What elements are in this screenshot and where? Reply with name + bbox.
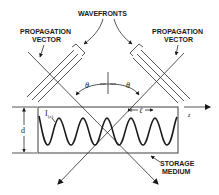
theta-arc-left	[76, 84, 106, 95]
propagation-vector-right-label-line1: PROPAGATION	[152, 28, 203, 35]
propagation-vector-right-label-line2: VECTOR	[164, 36, 193, 43]
storage-medium-label-line2: MEDIUM	[162, 168, 191, 175]
wavefronts-leader-right	[114, 19, 132, 44]
wavefronts-label: WAVEFRONTS	[78, 10, 127, 17]
thickness-label: d	[21, 126, 25, 135]
holographic-grating-diagram: WAVEFRONTS PROPAGATION VECTOR PROPAGATIO…	[0, 0, 219, 195]
propagation-vector-left-label-line2: VECTOR	[32, 36, 61, 43]
theta-left-label: θ	[85, 81, 89, 90]
theta-right-label: θ	[126, 81, 130, 90]
intensity-fringe-wave	[39, 116, 177, 145]
intensity-label: I(z)	[45, 109, 54, 119]
theta-arc-right	[110, 84, 139, 95]
propagation-vector-left-label-line1: PROPAGATION	[20, 28, 71, 35]
propagation-left-leader	[40, 45, 44, 57]
intensity-leader	[52, 118, 55, 122]
wavefronts-leader-left	[84, 19, 103, 44]
wavefront-left-2	[32, 54, 78, 100]
wavefront-left-3	[38, 58, 82, 102]
z-axis-label: z	[187, 112, 191, 118]
wavefront-right-1	[141, 50, 190, 99]
storage-medium-label-line1: STORAGE	[160, 160, 195, 167]
propagation-right-leader	[176, 45, 178, 55]
storage-medium-box	[38, 107, 178, 153]
storage-medium-leader	[151, 156, 160, 162]
